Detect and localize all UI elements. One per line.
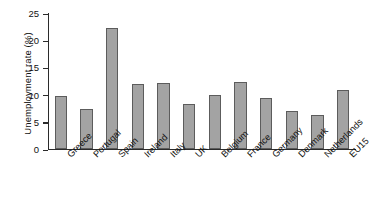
plot-area bbox=[48, 13, 356, 149]
bar bbox=[209, 95, 221, 149]
y-tick-label: 20 bbox=[0, 36, 39, 46]
y-tick-label: 15 bbox=[0, 63, 39, 73]
bar bbox=[55, 96, 67, 149]
y-axis-title: Unemployment rate (%) bbox=[22, 9, 33, 159]
y-tick-mark bbox=[43, 150, 48, 151]
bar bbox=[183, 104, 195, 149]
y-tick-label: 0 bbox=[0, 145, 39, 155]
y-tick-label: 5 bbox=[0, 118, 39, 128]
y-tick-label: 10 bbox=[0, 91, 39, 101]
y-tick-label: 25 bbox=[0, 9, 39, 19]
